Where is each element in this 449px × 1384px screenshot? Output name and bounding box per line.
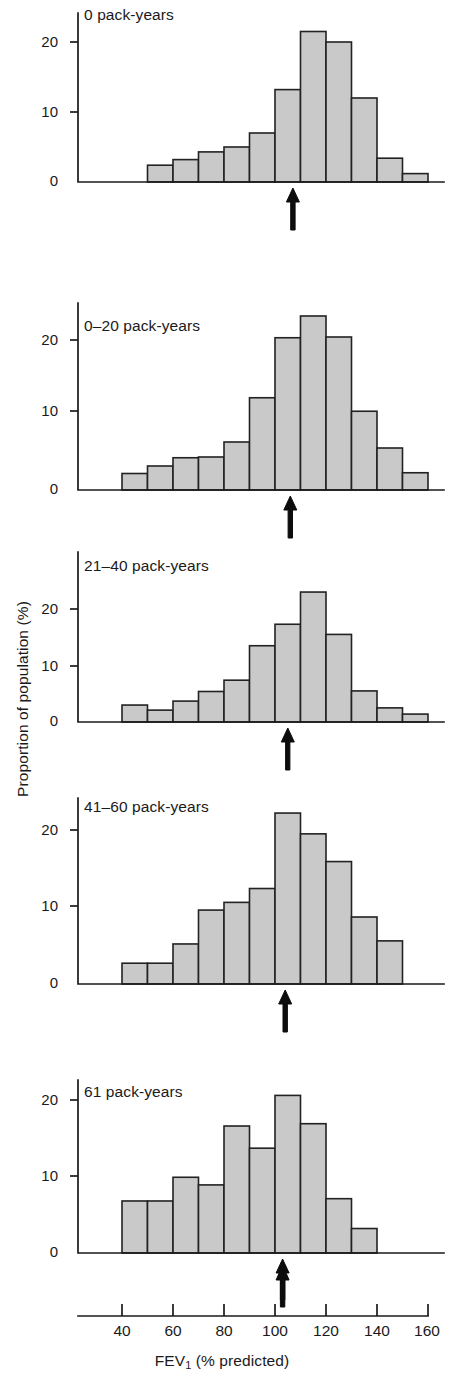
histogram-bar <box>377 941 403 984</box>
histogram-bar <box>352 917 378 984</box>
histogram-bar <box>199 152 225 182</box>
histogram-bar <box>377 708 403 722</box>
histogram-bar <box>326 1199 352 1253</box>
histogram-bar <box>403 714 429 722</box>
histogram-panel-3 <box>122 592 428 770</box>
histogram-bar <box>199 910 225 984</box>
histogram-bar <box>173 160 199 182</box>
histogram-bar <box>352 411 378 490</box>
histogram-bar <box>199 457 225 490</box>
histogram-bar <box>275 813 301 984</box>
mean-arrow-marker <box>286 188 299 230</box>
histogram-bar <box>122 474 148 491</box>
histogram-bar <box>224 902 250 984</box>
histogram-bar <box>275 90 301 182</box>
histogram-bar <box>250 889 276 984</box>
histogram-panel-2 <box>122 316 428 538</box>
histogram-bar <box>122 963 148 984</box>
histogram-bar <box>224 1126 250 1253</box>
histogram-bar <box>301 316 327 490</box>
histogram-bar <box>122 705 148 722</box>
histogram-bar <box>250 398 276 490</box>
histogram-bar <box>173 944 199 984</box>
histogram-panel-5 <box>122 1095 377 1307</box>
histogram-bar <box>173 701 199 722</box>
histogram-bar <box>352 98 378 182</box>
histogram-bar <box>122 1201 148 1253</box>
histogram-bar <box>148 963 174 984</box>
histogram-bar <box>148 466 174 490</box>
histogram-bar <box>173 1177 199 1253</box>
histogram-bar <box>301 834 327 984</box>
histogram-bar <box>275 624 301 722</box>
mean-arrow-marker <box>284 496 297 538</box>
x-axis <box>78 1304 428 1316</box>
histogram-bar <box>148 710 174 722</box>
histogram-bar <box>148 165 174 182</box>
histogram-bar <box>199 1185 225 1253</box>
histogram-bar <box>301 592 327 722</box>
histogram-bar <box>326 862 352 984</box>
histogram-bar <box>403 473 429 490</box>
histogram-bar <box>326 337 352 490</box>
histogram-bar <box>173 458 199 490</box>
histogram-bar <box>250 1148 276 1253</box>
histogram-bar <box>250 133 276 182</box>
histogram-bar <box>352 691 378 722</box>
histogram-bar <box>377 158 403 182</box>
mean-arrow-marker <box>279 990 292 1032</box>
histogram-bar <box>148 1201 174 1253</box>
histogram-bar <box>224 147 250 182</box>
histogram-bar <box>301 1124 327 1253</box>
histogram-bar <box>377 448 403 490</box>
histogram-bar <box>224 442 250 490</box>
histogram-bar <box>275 1095 301 1253</box>
histogram-bar <box>224 680 250 722</box>
histogram-bar <box>403 174 429 182</box>
histogram-panel-1 <box>148 32 429 231</box>
histogram-panel-4 <box>122 813 403 1032</box>
histogram-bar <box>250 646 276 722</box>
histogram-bar <box>352 1229 378 1253</box>
histogram-bar <box>275 338 301 490</box>
mean-arrow-marker <box>281 728 294 770</box>
histogram-bar <box>301 32 327 183</box>
histogram-bar <box>326 42 352 182</box>
histogram-bar <box>326 634 352 722</box>
histogram-bar <box>199 691 225 722</box>
